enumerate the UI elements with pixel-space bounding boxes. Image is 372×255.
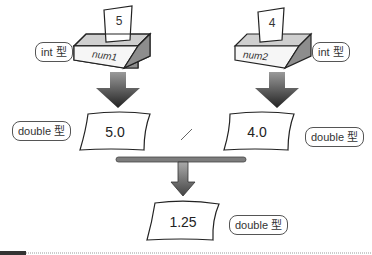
footer-rule-accent	[0, 251, 26, 255]
result-arrow	[171, 162, 195, 196]
type-tag-casted-left: double 型	[12, 121, 71, 141]
type-tag-num2: int 型	[312, 42, 350, 62]
type-tag-casted-right: double 型	[305, 127, 364, 147]
cast-arrow-right	[255, 72, 299, 108]
merge-bar	[116, 157, 246, 162]
type-tag-result: double 型	[229, 215, 288, 235]
casted-value-right: 4.0	[232, 124, 282, 140]
casted-value-left: 5.0	[90, 124, 140, 140]
num2-value: 4	[262, 16, 282, 30]
type-tag-num1: int 型	[35, 42, 73, 62]
division-operator	[181, 129, 192, 140]
cast-arrow-left	[96, 72, 140, 108]
result-value: 1.25	[158, 214, 208, 230]
num1-value: 5	[108, 14, 130, 28]
